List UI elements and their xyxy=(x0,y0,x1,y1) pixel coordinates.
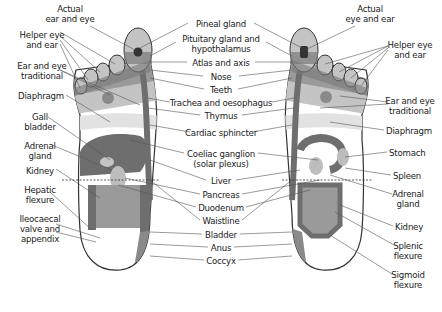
label-splenic-flexure: Splenicflexure xyxy=(393,241,423,261)
reflexology-diagram: Actualear and eyeHelper eyeand earEar an… xyxy=(0,0,442,312)
label-pancreas: Pancreas xyxy=(202,190,239,200)
label-stomach: Stomach xyxy=(389,148,426,158)
label-hepatic-flexure: Hepaticflexure xyxy=(24,185,56,205)
label-cardiac-sphincter: Cardiac sphincter xyxy=(185,128,257,138)
label-sigmoid-flexure: Sigmoidflexure xyxy=(391,270,424,290)
label-helper-eye-ear-right: Helper eyeand ear xyxy=(388,40,433,60)
label-duodenum: Duodenum xyxy=(198,203,244,213)
label-kidney-right: Kidney xyxy=(395,222,423,232)
label-waistline: Waistline xyxy=(202,216,239,226)
label-kidney-left: Kidney xyxy=(26,166,54,176)
label-teeth: Teeth xyxy=(210,85,232,95)
label-actual-eye-ear: Actualeye and ear xyxy=(345,4,394,24)
label-pineal-gland: Pineal gland xyxy=(196,19,246,29)
right-foot xyxy=(282,28,372,270)
label-trachea: Trachea and oesophagus xyxy=(170,98,273,108)
label-atlas-axis: Atlas and axis xyxy=(192,58,249,68)
label-pituitary-gland: Pituitary gland andhypothalamus xyxy=(182,34,260,54)
label-spleen: Spleen xyxy=(393,171,421,181)
label-bladder: Bladder xyxy=(205,230,237,240)
label-adrenal-gland-left: Adrenalgland xyxy=(24,141,56,161)
label-anus: Anus xyxy=(211,243,231,253)
label-diaphragm-right: Diaphragm xyxy=(386,126,432,136)
label-actual-ear-eye: Actualear and eye xyxy=(45,4,94,24)
label-adrenal-gland-right: Adrenalgland xyxy=(392,189,424,209)
label-liver: Liver xyxy=(211,176,231,186)
label-helper-eye-ear-left: Helper eyeand ear xyxy=(20,30,65,50)
label-nose: Nose xyxy=(211,72,232,82)
label-thymus: Thymus xyxy=(205,111,238,121)
label-ileocaecal-valve: Ileocaecalvalve andappendix xyxy=(19,214,60,244)
label-ear-eye-traditional-right: Ear and eyetraditional xyxy=(385,96,434,116)
label-coccyx: Coccyx xyxy=(206,256,236,266)
label-gall-bladder: Gallbladder xyxy=(24,112,55,132)
label-ear-eye-traditional-left: Ear and eyetraditional xyxy=(17,61,66,81)
label-coeliac-ganglion: Coeliac ganglion(solar plexus) xyxy=(187,149,255,169)
label-diaphragm-left: Diaphragm xyxy=(18,91,64,101)
